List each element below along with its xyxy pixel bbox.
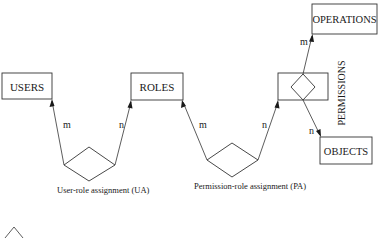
roles-entity: ROLES: [131, 73, 183, 100]
arrow-head-icon: [309, 34, 314, 42]
ua-relationship: m n User-role assignment (UA): [50, 99, 150, 195]
objects-label: OBJECTS: [324, 146, 369, 157]
ua-roles-cardinality: n: [119, 119, 124, 130]
pa-diamond-icon: [207, 143, 258, 177]
permissions-operations-link: m: [300, 34, 314, 74]
operations-label: OPERATIONS: [312, 14, 376, 25]
users-label: USERS: [10, 81, 44, 93]
roles-label: ROLES: [140, 81, 175, 93]
arrow-head-icon: [50, 99, 55, 107]
users-entity: USERS: [2, 73, 52, 99]
ua-diamond-icon: [64, 147, 115, 181]
pa-roles-cardinality: m: [199, 119, 207, 130]
permissions-objects-link: n: [303, 100, 321, 137]
partial-diamond-icon: [5, 227, 23, 238]
operations-entity: OPERATIONS: [312, 4, 377, 34]
permissions-entity: [278, 73, 328, 100]
arrow-head-icon: [128, 100, 133, 109]
objects-cardinality: n: [309, 125, 314, 136]
pa-permissions-cardinality: n: [262, 119, 267, 130]
ua-label: User-role assignment (UA): [57, 185, 150, 195]
ua-users-cardinality: m: [63, 119, 71, 130]
pa-label: Permission-role assignment (PA): [194, 181, 306, 191]
arrow-head-icon: [316, 129, 321, 137]
arrow-head-icon: [275, 100, 280, 109]
pa-relationship: m n Permission-role assignment (PA): [181, 100, 306, 191]
operations-cardinality: m: [300, 36, 308, 47]
rbac-diagram: USERS ROLES OPERATIONS OBJECTS PERMISSIO…: [0, 0, 378, 238]
permissions-label: PERMISSIONS: [336, 60, 347, 125]
objects-entity: OBJECTS: [320, 137, 372, 164]
